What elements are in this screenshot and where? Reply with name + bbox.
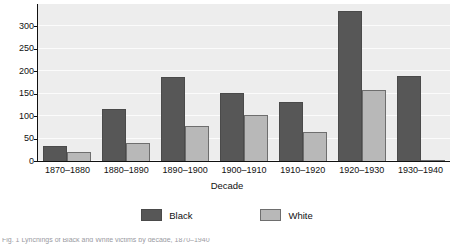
bar-black[interactable] — [43, 146, 67, 161]
x-axis-line — [37, 161, 450, 162]
x-axis-tick-label: 1910–1920 — [273, 164, 332, 178]
bar-group — [97, 4, 156, 161]
bar-white[interactable] — [244, 115, 268, 161]
x-axis-tick-label: 1870–1880 — [38, 164, 97, 178]
bar-black[interactable] — [279, 102, 303, 161]
y-axis-tick-label: 300 — [0, 22, 34, 31]
legend-swatch-icon — [260, 209, 281, 221]
x-axis-tick-label: 1890–1900 — [156, 164, 215, 178]
legend-swatch-icon — [141, 209, 162, 221]
x-axis-tick-label: 1920–1930 — [332, 164, 391, 178]
bar-white[interactable] — [303, 132, 327, 161]
x-axis-title: Decade — [0, 180, 454, 191]
y-axis-tick-label: 200 — [0, 67, 34, 76]
figure-caption: Fig. 1 Lynchings of Black and White vict… — [2, 238, 454, 245]
y-axis-tick-label: 50 — [0, 134, 34, 143]
x-axis-ticks: 1870–18801880–18901890–19001900–19101910… — [38, 164, 450, 178]
bar-group — [156, 4, 215, 161]
figure-caption-text: Fig. 1 Lynchings of Black and White vict… — [2, 238, 454, 244]
bar-group — [391, 4, 450, 161]
bar-black[interactable] — [161, 77, 185, 161]
bar-white[interactable] — [67, 152, 91, 161]
bar-white[interactable] — [185, 126, 209, 161]
y-axis-tick-label: 250 — [0, 44, 34, 53]
bar-black[interactable] — [102, 109, 126, 161]
y-axis-tick-label: 150 — [0, 89, 34, 98]
bar-black[interactable] — [397, 76, 421, 161]
bar-group — [332, 4, 391, 161]
bar-black[interactable] — [338, 11, 362, 161]
x-axis-tick-label: 1930–1940 — [391, 164, 450, 178]
bar-white[interactable] — [126, 143, 150, 161]
x-axis-tick-label: 1900–1910 — [215, 164, 274, 178]
x-axis-tick-label: 1880–1890 — [97, 164, 156, 178]
legend-entry-black[interactable]: Black — [141, 209, 192, 221]
plot-area — [38, 4, 450, 161]
chart-legend: BlackWhite — [0, 209, 454, 221]
bar-white[interactable] — [362, 90, 386, 161]
legend-label: Black — [169, 210, 192, 221]
y-axis-tick-label: 0 — [0, 157, 34, 166]
bar-group — [38, 4, 97, 161]
bar-black[interactable] — [220, 93, 244, 161]
bar-groups — [38, 4, 450, 161]
y-axis-ticks: 050100150200250300 — [0, 0, 34, 165]
y-axis-line — [37, 4, 38, 162]
y-axis-tick-label: 100 — [0, 112, 34, 121]
chart-figure: 050100150200250300 1870–18801880–1890189… — [0, 0, 454, 245]
legend-entry-white[interactable]: White — [260, 209, 312, 221]
bar-group — [215, 4, 274, 161]
bar-group — [273, 4, 332, 161]
legend-label: White — [288, 210, 312, 221]
